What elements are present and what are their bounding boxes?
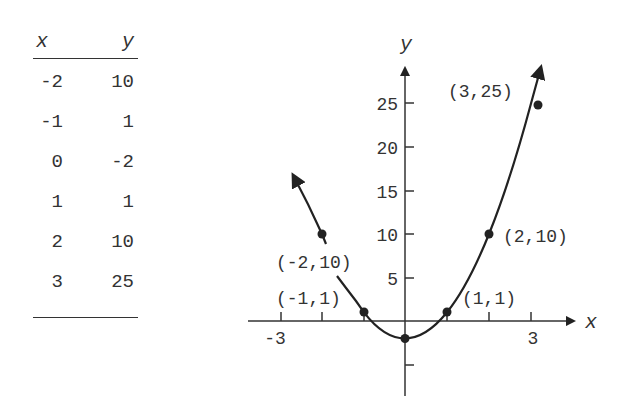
y-tick-label-5: 5 (387, 270, 398, 290)
point-0-neg2 (401, 334, 410, 343)
x-ticks (281, 312, 531, 321)
point-1-1 (443, 308, 452, 317)
label-point-neg1-1: (-1,1) (276, 289, 341, 309)
point-neg1-1 (360, 308, 369, 317)
y-tick-label-25: 25 (376, 95, 398, 115)
point-2-10 (485, 230, 494, 239)
label-point-1-1: (1,1) (462, 289, 516, 309)
x-tick-label-3: 3 (528, 329, 539, 349)
parabola-graph: 5 10 15 20 25 -3 3 y x (-2,10) (-1,1) (1… (0, 0, 630, 415)
y-ticks (405, 103, 414, 365)
y-tick-label-15: 15 (376, 183, 398, 203)
label-point-3-25: (3,25) (448, 82, 513, 102)
y-tick-label-20: 20 (376, 139, 398, 159)
x-tick-label-neg3: -3 (264, 329, 286, 349)
point-neg2-10 (318, 230, 327, 239)
point-3-25 (534, 101, 543, 110)
x-axis-label: x (584, 311, 597, 334)
label-point-2-10: (2,10) (503, 227, 568, 247)
label-point-neg2-10: (-2,10) (276, 253, 352, 273)
y-tick-label-10: 10 (376, 226, 398, 246)
y-axis-label: y (399, 33, 413, 56)
